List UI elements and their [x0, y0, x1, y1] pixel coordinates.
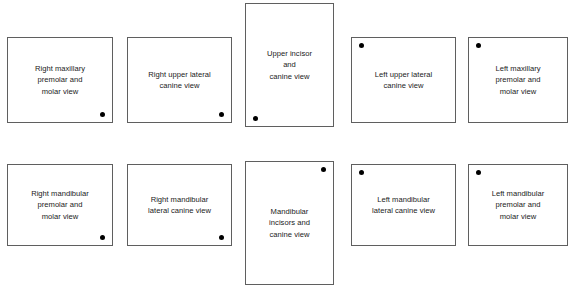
film-label: Mandibular incisors and canine view — [246, 206, 333, 240]
orientation-dot-icon — [100, 235, 105, 240]
orientation-dot-icon — [100, 112, 105, 117]
film-label: Left maxillary premolar and molar view — [469, 63, 567, 97]
orientation-dot-icon — [219, 112, 224, 117]
orientation-dot-icon — [476, 170, 481, 175]
film-frame-mandibular-incisors-canine[interactable]: Mandibular incisors and canine view — [245, 161, 334, 285]
orientation-dot-icon — [219, 235, 224, 240]
film-frame-left-mandibular-lateral-canine[interactable]: Left mandibular lateral canine view — [351, 164, 456, 246]
film-frame-left-upper-lateral-canine[interactable]: Left upper lateral canine view — [351, 37, 456, 123]
film-label: Upper incisor and canine view — [246, 48, 333, 82]
radiograph-mount: Right maxillary premolar and molar viewR… — [0, 0, 575, 288]
film-label: Right mandibular lateral canine view — [128, 194, 231, 217]
orientation-dot-icon — [321, 167, 326, 172]
film-label: Right upper lateral canine view — [128, 69, 231, 92]
film-label: Left mandibular premolar and molar view — [469, 188, 567, 222]
film-label: Right mandibular premolar and molar view — [8, 188, 112, 222]
film-frame-left-maxillary-premolar-molar[interactable]: Left maxillary premolar and molar view — [468, 37, 568, 123]
film-label: Left mandibular lateral canine view — [352, 194, 455, 217]
film-frame-right-mandibular-premolar-molar[interactable]: Right mandibular premolar and molar view — [7, 164, 113, 246]
film-frame-right-mandibular-lateral-canine[interactable]: Right mandibular lateral canine view — [127, 164, 232, 246]
orientation-dot-icon — [359, 170, 364, 175]
film-frame-right-upper-lateral-canine[interactable]: Right upper lateral canine view — [127, 37, 232, 123]
film-label: Left upper lateral canine view — [352, 69, 455, 92]
orientation-dot-icon — [359, 43, 364, 48]
film-frame-upper-incisor-canine[interactable]: Upper incisor and canine view — [245, 3, 334, 127]
film-label: Right maxillary premolar and molar view — [8, 63, 112, 97]
film-frame-left-mandibular-premolar-molar[interactable]: Left mandibular premolar and molar view — [468, 164, 568, 246]
orientation-dot-icon — [476, 43, 481, 48]
film-frame-right-maxillary-premolar-molar[interactable]: Right maxillary premolar and molar view — [7, 37, 113, 123]
orientation-dot-icon — [253, 116, 258, 121]
